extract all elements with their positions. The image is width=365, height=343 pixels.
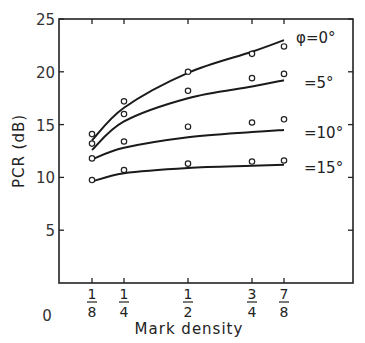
measured-point [249, 120, 254, 125]
fraction-numerator: 1 [88, 286, 97, 302]
fitted-curve [92, 165, 284, 182]
fitted-curve [92, 130, 284, 160]
series-label: =15° [304, 159, 343, 177]
measured-point [185, 69, 190, 74]
fraction-denominator: 2 [184, 304, 193, 320]
measured-point [249, 159, 254, 164]
x-tick-label-fraction: 14 [119, 286, 129, 320]
y-axis-title: PCR (dB) [10, 114, 28, 188]
y-tick-label: 25 [36, 11, 55, 29]
fraction-numerator: 1 [184, 286, 193, 302]
measured-point [281, 71, 286, 76]
measured-point [281, 44, 286, 49]
measured-point [185, 88, 190, 93]
x-tick-label-fraction: 78 [279, 286, 289, 320]
series-labels: φ=0°=5°=10°=15° [296, 29, 343, 177]
measured-point [281, 117, 286, 122]
fraction-numerator: 3 [248, 286, 257, 302]
y-tick-label: 10 [36, 169, 55, 187]
plot-frame [59, 19, 353, 283]
fraction-numerator: 7 [280, 286, 289, 302]
measured-point [185, 161, 190, 166]
measured-points [89, 44, 286, 183]
measured-point [121, 167, 126, 172]
series-label: =5° [304, 74, 334, 92]
measured-point [89, 156, 94, 161]
measured-point [185, 124, 190, 129]
series-label: =10° [304, 124, 343, 142]
fraction-denominator: 8 [88, 304, 97, 320]
fraction-denominator: 8 [280, 304, 289, 320]
x-origin-label: 0 [42, 307, 52, 325]
y-tick-label: 20 [36, 64, 55, 82]
x-axis-title: Mark density [135, 320, 244, 338]
x-tick-label-fraction: 18 [87, 286, 97, 320]
pcr-vs-mark-density-chart: 510152025 1814123478 φ=0°=5°=10°=15° PCR… [0, 0, 365, 343]
measured-point [281, 158, 286, 163]
x-tick-label-fraction: 12 [183, 286, 193, 320]
x-tick-label-fraction: 34 [247, 286, 257, 320]
measured-point [89, 131, 94, 136]
measured-point [249, 51, 254, 56]
fraction-numerator: 1 [120, 286, 129, 302]
measured-point [249, 75, 254, 80]
measured-point [121, 111, 126, 116]
series-label: φ=0° [296, 29, 336, 47]
fraction-denominator: 4 [248, 304, 257, 320]
measured-point [121, 139, 126, 144]
y-tick-label: 5 [45, 222, 55, 240]
measured-point [89, 177, 94, 182]
y-tick-label: 15 [36, 117, 55, 135]
x-axis: 1814123478 [87, 19, 289, 320]
measured-point [89, 141, 94, 146]
measured-point [121, 99, 126, 104]
fraction-denominator: 4 [120, 304, 129, 320]
